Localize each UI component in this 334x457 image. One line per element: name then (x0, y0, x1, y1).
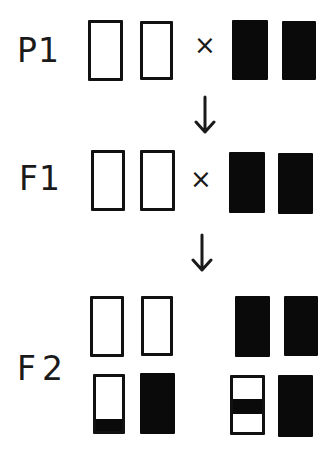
generation-label-f1: F1 (19, 162, 61, 195)
down-arrow-icon (191, 233, 213, 273)
chromosome-black (278, 153, 313, 214)
chromosome-black (278, 375, 313, 437)
chromosome-white (91, 150, 125, 211)
chromosome-white (140, 150, 175, 211)
black-segment (233, 399, 262, 414)
generation-label-p1: P1 (17, 34, 60, 67)
cross-symbol: × (194, 32, 216, 58)
chromosome-white (90, 296, 124, 357)
down-arrow-icon (194, 95, 216, 135)
chromosome-black (282, 21, 316, 80)
black-segment (96, 419, 122, 431)
cross-symbol: × (190, 166, 212, 192)
chromosome-white (141, 296, 173, 356)
chromosome-black (284, 296, 318, 356)
chromosome-black (235, 296, 270, 357)
chromosome-white (140, 21, 173, 80)
chromosome-black (229, 152, 265, 213)
chromosome-black (140, 373, 175, 434)
chromosome-white (88, 20, 123, 81)
chromosome-recombinant-middle-band (230, 375, 265, 435)
chromosome-black (232, 20, 268, 80)
chromosome-recombinant-bottom-band (93, 374, 125, 434)
generation-label-f2: F2 (17, 352, 69, 385)
